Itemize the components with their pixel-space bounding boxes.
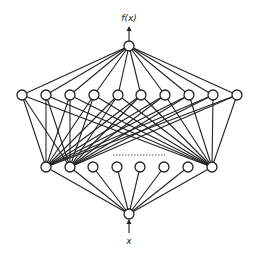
hidden-neuron-bottom — [183, 162, 193, 172]
edge-hidden-hidden — [46, 95, 141, 167]
hidden-neuron-top — [65, 90, 75, 100]
hidden-neuron-top — [208, 90, 218, 100]
edge-hidden-input — [93, 167, 129, 214]
edge-hidden-input — [129, 167, 212, 214]
input-label: x — [125, 236, 132, 246]
input-arrowhead-icon — [127, 219, 132, 224]
edge-output-hidden — [129, 46, 237, 95]
neural-network-diagram: f(x) x — [0, 0, 254, 256]
output-neuron — [124, 41, 134, 51]
edge-output-hidden — [46, 46, 129, 95]
edge-hidden-input — [46, 167, 129, 214]
hidden-neuron-top — [160, 90, 170, 100]
edge-hidden-hidden — [212, 95, 237, 167]
edge-hidden-hidden — [46, 95, 118, 167]
input-neuron — [124, 209, 134, 219]
hidden-neuron-top — [113, 90, 123, 100]
hidden-neuron-bottom — [159, 162, 169, 172]
hidden-neuron-top — [17, 90, 27, 100]
output-label: f(x) — [121, 13, 137, 23]
hidden-neuron-bottom — [112, 162, 122, 172]
hidden-neuron-bottom — [41, 162, 51, 172]
io-arrows — [127, 26, 132, 233]
edge-hidden-hidden — [22, 95, 46, 167]
connections — [22, 46, 237, 214]
hidden-neuron-bottom — [207, 162, 217, 172]
output-arrowhead-icon — [127, 26, 132, 31]
neurons — [17, 41, 242, 219]
hidden-neuron-top — [41, 90, 51, 100]
hidden-neuron-top — [136, 90, 146, 100]
edge-output-hidden — [22, 46, 129, 95]
hidden-neuron-top — [89, 90, 99, 100]
edge-output-hidden — [129, 46, 213, 95]
hidden-neuron-bottom — [135, 162, 145, 172]
hidden-neuron-top — [232, 90, 242, 100]
hidden-neuron-bottom — [88, 162, 98, 172]
edge-hidden-hidden — [46, 95, 189, 167]
edge-hidden-hidden — [46, 95, 165, 167]
edge-hidden-hidden — [118, 95, 212, 167]
hidden-neuron-bottom — [65, 162, 75, 172]
hidden-neuron-top — [184, 90, 194, 100]
edge-hidden-input — [70, 167, 129, 214]
